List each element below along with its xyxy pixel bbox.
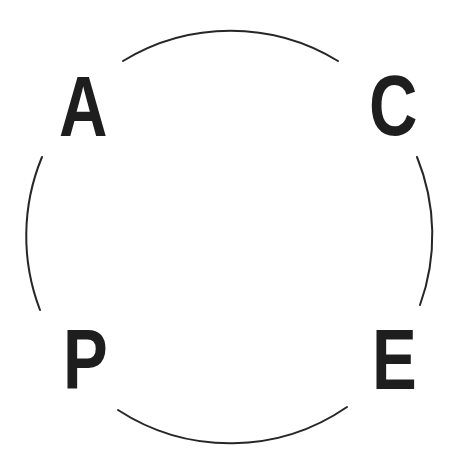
node-label-a: A	[59, 63, 107, 149]
arc-top	[123, 31, 338, 61]
node-label-c: C	[369, 62, 417, 148]
node-label-e: E	[372, 316, 417, 402]
node-label-p: P	[63, 316, 108, 402]
arc-bottom	[118, 407, 347, 443]
arc-left	[26, 157, 42, 310]
arc-right	[417, 157, 432, 305]
